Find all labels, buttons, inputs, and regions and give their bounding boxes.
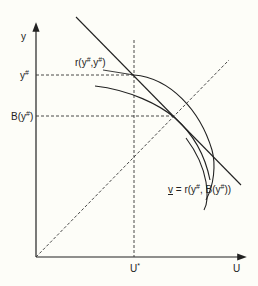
b-y-sharp-label: B(y#) bbox=[11, 112, 33, 122]
u-star-label: U* bbox=[130, 264, 140, 274]
y-axis-label: y bbox=[21, 32, 26, 42]
inner-frontier-curve bbox=[95, 86, 210, 180]
r-point-label: r(y#,y#) bbox=[75, 58, 106, 68]
x-axis-label: U bbox=[233, 264, 240, 274]
v-curve-label: v = r(y#, B(y#)) bbox=[168, 185, 231, 195]
budget-line bbox=[76, 17, 241, 185]
y-sharp-label: y# bbox=[20, 71, 29, 81]
v-curve bbox=[186, 138, 207, 210]
outer-frontier-curve bbox=[134, 75, 214, 200]
diagram-canvas bbox=[0, 0, 258, 286]
forty-five-degree-line bbox=[36, 60, 229, 257]
